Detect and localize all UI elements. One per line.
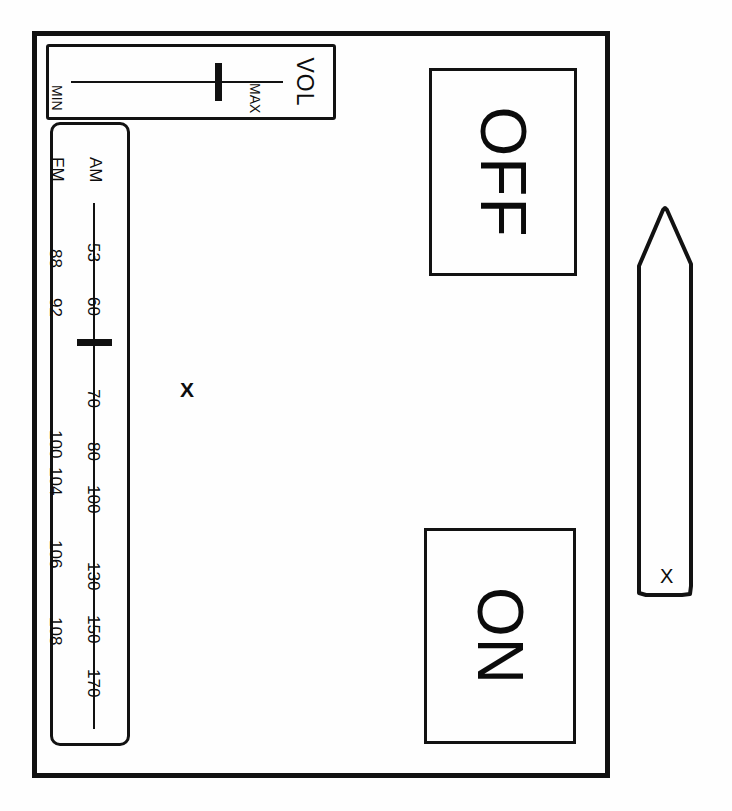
am-tick-150: 150 (83, 615, 103, 643)
power-off-button[interactable]: OFF (429, 68, 577, 276)
am-tick-53: 53 (83, 243, 103, 262)
am-tick-170: 170 (83, 669, 103, 697)
am-tick-80: 80 (83, 442, 103, 461)
am-tick-70: 70 (83, 389, 103, 408)
volume-max-label: MAX (247, 83, 263, 113)
band-label-fm: FM (47, 157, 67, 182)
am-tick-130: 130 (83, 562, 103, 590)
tuner-slider-track[interactable] (93, 203, 95, 729)
am-tick-100: 100 (83, 485, 103, 513)
antenna-pointer-shape[interactable] (634, 204, 696, 600)
fm-tick-92: 92 (45, 298, 65, 317)
sketch-canvas: VOL MIN MAX AM FM 53607080100130150170 8… (0, 0, 732, 811)
volume-min-label: MIN (49, 85, 65, 111)
power-on-button-label: ON (463, 587, 537, 685)
fm-tick-108: 108 (45, 617, 65, 645)
volume-control-panel[interactable]: VOL MIN MAX (46, 44, 336, 120)
power-on-button[interactable]: ON (424, 528, 576, 744)
fm-tick-106: 106 (45, 540, 65, 568)
volume-label: VOL (291, 57, 318, 106)
fm-tick-88: 88 (45, 249, 65, 268)
volume-slider-thumb[interactable] (215, 63, 222, 101)
antenna-pointer-outline (634, 204, 696, 600)
tuner-dial-panel[interactable]: AM FM 53607080100130150170 8892100104106… (50, 122, 130, 746)
fm-tick-104: 104 (45, 467, 65, 495)
tuner-slider-thumb[interactable] (77, 339, 112, 346)
antenna-pointer-x-mark: X (660, 565, 673, 588)
band-label-am: AM (85, 157, 105, 183)
center-x-mark: X (180, 378, 194, 402)
power-off-button-label: OFF (466, 107, 540, 238)
fm-tick-100: 100 (45, 430, 65, 458)
am-tick-60: 60 (83, 297, 103, 316)
